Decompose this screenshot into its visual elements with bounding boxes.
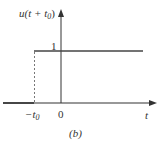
figure-caption: (b) bbox=[69, 128, 82, 139]
x-axis-arrow-icon bbox=[149, 100, 157, 106]
y-axis-label-main: u(t + t bbox=[19, 7, 47, 19]
step-plot bbox=[0, 0, 160, 147]
x-tick-neg-t0: −t0 bbox=[25, 109, 39, 122]
x-tick-neg-t0-main: −t bbox=[25, 108, 35, 120]
y-axis-label-end: ) bbox=[51, 7, 55, 19]
x-axis-label: t bbox=[145, 110, 148, 121]
x-tick-zero: 0 bbox=[58, 109, 64, 120]
x-tick-neg-t0-sub: 0 bbox=[35, 113, 39, 122]
y-axis-label: u(t + t0) bbox=[19, 8, 55, 21]
y-tick-one: 1 bbox=[51, 41, 57, 52]
y-axis-arrow-icon bbox=[58, 9, 64, 17]
